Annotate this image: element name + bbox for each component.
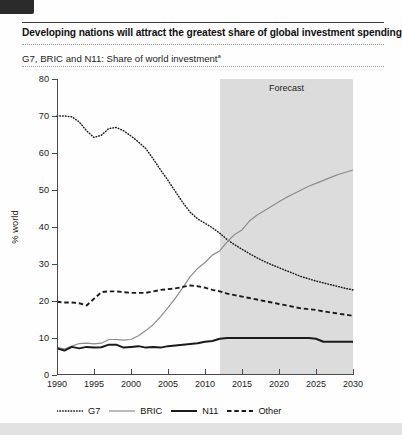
title-rule-middle	[22, 44, 384, 45]
legend-item-bric[interactable]: BRIC	[109, 406, 162, 416]
legend-item-n11[interactable]: N11	[171, 406, 218, 416]
y-tick-label: 80	[39, 74, 49, 84]
y-tick	[52, 190, 57, 191]
legend-item-g7[interactable]: G7	[57, 406, 100, 416]
y-tick	[52, 338, 57, 339]
chart-figure: Developing nations will attract the grea…	[0, 0, 402, 435]
x-tick	[168, 369, 169, 375]
x-tick-label: 1990	[47, 379, 67, 389]
x-tick	[353, 369, 354, 375]
legend-swatch-icon	[227, 407, 253, 415]
y-tick	[52, 375, 57, 376]
y-tick-label: 10	[39, 333, 49, 343]
y-tick	[52, 153, 57, 154]
legend-label: G7	[88, 406, 100, 416]
series-line-bric	[57, 170, 353, 349]
x-tick-label: 2010	[195, 379, 215, 389]
y-tick-label: 70	[39, 111, 49, 121]
corner-block-icon	[0, 0, 34, 14]
series-lines	[57, 79, 353, 375]
y-axis-line	[57, 79, 58, 375]
legend-swatch-icon	[109, 407, 135, 415]
x-tick	[131, 369, 132, 375]
legend-label: Other	[258, 406, 281, 416]
x-tick-label: 2015	[232, 379, 252, 389]
legend-label: BRIC	[140, 406, 162, 416]
page-title: Developing nations will attract the grea…	[22, 27, 386, 39]
x-tick	[205, 369, 206, 375]
chart-legend: G7BRICN11Other	[57, 406, 281, 416]
x-tick-label: 1995	[84, 379, 104, 389]
bottom-band	[0, 423, 402, 435]
y-tick-label: 30	[39, 259, 49, 269]
y-tick	[52, 264, 57, 265]
x-tick-label: 2025	[306, 379, 326, 389]
x-tick	[94, 369, 95, 375]
y-tick-label: 50	[39, 185, 49, 195]
legend-swatch-icon	[171, 407, 197, 415]
x-tick	[316, 369, 317, 375]
y-tick	[52, 116, 57, 117]
series-line-n11	[57, 338, 353, 351]
y-tick	[52, 227, 57, 228]
y-tick-label: 20	[39, 296, 49, 306]
footnote-marker: a	[218, 53, 221, 59]
title-rule-top	[22, 22, 384, 23]
y-tick	[52, 79, 57, 80]
y-tick-label: 60	[39, 148, 49, 158]
legend-item-other[interactable]: Other	[227, 406, 281, 416]
x-tick-label: 2030	[343, 379, 363, 389]
y-tick-label: 40	[39, 222, 49, 232]
x-tick-label: 2020	[269, 379, 289, 389]
x-tick-label: 2005	[158, 379, 178, 389]
legend-label: N11	[202, 406, 218, 416]
y-axis-title: % world	[9, 210, 20, 243]
x-tick	[242, 369, 243, 375]
chart-subtitle-text: G7, BRIC and N11: Share of world investm…	[22, 53, 218, 64]
x-tick	[57, 369, 58, 375]
chart-subtitle: G7, BRIC and N11: Share of world investm…	[22, 50, 386, 65]
x-tick-label: 2000	[121, 379, 141, 389]
series-line-g7	[57, 116, 353, 290]
series-line-other	[57, 285, 353, 315]
y-tick	[52, 301, 57, 302]
title-rule-bottom	[22, 66, 384, 67]
legend-swatch-icon	[57, 407, 83, 415]
x-tick	[279, 369, 280, 375]
plot-area: Forecast 01020304050607080 1990199520002…	[57, 79, 353, 375]
